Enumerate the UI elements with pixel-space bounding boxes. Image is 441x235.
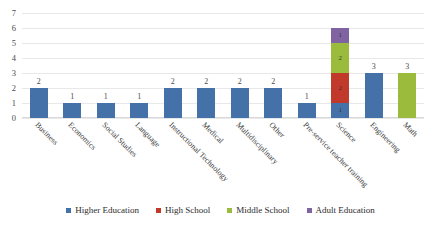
legend-swatch-icon — [307, 208, 312, 213]
legend-item-high-school[interactable]: High School — [156, 206, 210, 215]
segment-value-label: 1 — [338, 107, 342, 114]
x-axis-labels: BusinessEconomicsSocial StudiesLanguageI… — [22, 119, 424, 197]
bar-total-label: 2 — [30, 78, 48, 86]
x-label-slot: Pre-service teacher training — [290, 119, 324, 197]
x-label-slot: Math — [391, 119, 425, 197]
legend-label: Higher Education — [75, 206, 139, 215]
bar-segment-high-school[interactable]: 2 — [331, 73, 349, 103]
x-axis-label-other: Other — [268, 121, 287, 140]
bar-segment-higher-education[interactable] — [197, 88, 215, 118]
chart-container: 211122221122133 01234567 BusinessEconomi… — [0, 0, 441, 235]
legend-label: Middle School — [236, 206, 289, 215]
bar-slot: 2 — [223, 13, 257, 118]
bar-science[interactable]: 1221 — [331, 28, 349, 118]
legend-item-adult-education[interactable]: Adult Education — [307, 206, 375, 215]
legend-label: Adult Education — [316, 206, 375, 215]
bar-segment-middle-school[interactable]: 2 — [331, 43, 349, 73]
plot-area: 211122221122133 — [22, 13, 424, 118]
bar-slot: 3 — [391, 13, 425, 118]
bar-total-label: 2 — [264, 78, 282, 86]
bar-total-label: 2 — [197, 78, 215, 86]
bar-series-group: 211122221122133 — [22, 13, 424, 118]
bar-segment-higher-education[interactable] — [63, 103, 81, 118]
x-label-slot: Business — [22, 119, 56, 197]
bar-slot: 2 — [190, 13, 224, 118]
x-label-slot: Economics — [56, 119, 90, 197]
bar-slot: 3 — [357, 13, 391, 118]
x-label-slot: Engineering — [357, 119, 391, 197]
bar-slot: 1 — [89, 13, 123, 118]
bar-slot: 1 — [56, 13, 90, 118]
y-tick-label-4: 4 — [0, 54, 16, 63]
bar-total-label: 3 — [398, 63, 416, 71]
bar-segment-higher-education[interactable] — [130, 103, 148, 118]
bar-slot: 2 — [156, 13, 190, 118]
y-tick-label-7: 7 — [0, 9, 16, 18]
y-tick-label-3: 3 — [0, 69, 16, 78]
bar-medical[interactable]: 2 — [197, 88, 215, 118]
y-tick-label-1: 1 — [0, 99, 16, 108]
bar-language[interactable]: 1 — [130, 103, 148, 118]
bar-math[interactable]: 3 — [398, 73, 416, 118]
bar-total-label: 2 — [164, 78, 182, 86]
bar-slot: 1221 — [324, 13, 358, 118]
bar-total-label: 1 — [298, 93, 316, 101]
x-label-slot: Medical — [190, 119, 224, 197]
bar-segment-higher-education[interactable] — [264, 88, 282, 118]
bar-segment-adult-education[interactable]: 1 — [331, 28, 349, 43]
y-tick-label-5: 5 — [0, 39, 16, 48]
x-label-slot: Social Studies — [89, 119, 123, 197]
bar-multidisciplinary[interactable]: 2 — [231, 88, 249, 118]
legend-label: High School — [165, 206, 210, 215]
bar-social-studies[interactable]: 1 — [97, 103, 115, 118]
bar-segment-higher-education[interactable] — [97, 103, 115, 118]
bar-business[interactable]: 2 — [30, 88, 48, 118]
x-label-slot: Other — [257, 119, 291, 197]
bar-total-label: 1 — [97, 93, 115, 101]
bar-total-label: 1 — [63, 93, 81, 101]
x-label-slot: Instructional Technology — [156, 119, 190, 197]
x-label-slot: Language — [123, 119, 157, 197]
bar-segment-higher-education[interactable]: 1 — [331, 103, 349, 118]
bar-economics[interactable]: 1 — [63, 103, 81, 118]
y-tick-label-6: 6 — [0, 24, 16, 33]
x-label-slot: Science — [324, 119, 358, 197]
x-label-slot: Multidisciplinary — [223, 119, 257, 197]
x-axis-label-science: Science — [335, 121, 358, 144]
legend-item-higher-education[interactable]: Higher Education — [66, 206, 139, 215]
bar-engineering[interactable]: 3 — [365, 73, 383, 118]
segment-value-label: 2 — [338, 55, 342, 62]
bar-slot: 1 — [290, 13, 324, 118]
bar-other[interactable]: 2 — [264, 88, 282, 118]
bar-segment-higher-education[interactable] — [365, 73, 383, 118]
segment-value-label: 1 — [338, 32, 342, 39]
legend-swatch-icon — [156, 208, 161, 213]
bar-segment-higher-education[interactable] — [164, 88, 182, 118]
x-axis-label-medical: Medical — [201, 121, 225, 145]
x-axis-label-math: Math — [402, 121, 420, 139]
bar-instructional-technology[interactable]: 2 — [164, 88, 182, 118]
bar-segment-middle-school[interactable] — [398, 73, 416, 118]
bar-slot: 2 — [257, 13, 291, 118]
legend-item-middle-school[interactable]: Middle School — [227, 206, 289, 215]
bar-segment-higher-education[interactable] — [231, 88, 249, 118]
legend-swatch-icon — [66, 208, 71, 213]
bar-total-label: 1 — [130, 93, 148, 101]
bar-slot: 1 — [123, 13, 157, 118]
y-tick-label-0: 0 — [0, 114, 16, 123]
bar-slot: 2 — [22, 13, 56, 118]
chart-legend: Higher EducationHigh SchoolMiddle School… — [0, 206, 441, 215]
legend-swatch-icon — [227, 208, 232, 213]
segment-value-label: 2 — [338, 85, 342, 92]
y-tick-label-2: 2 — [0, 84, 16, 93]
bar-segment-higher-education[interactable] — [298, 103, 316, 118]
bar-total-label: 2 — [231, 78, 249, 86]
bar-total-label: 3 — [365, 63, 383, 71]
bar-pre-service-teacher-training[interactable]: 1 — [298, 103, 316, 118]
bar-segment-higher-education[interactable] — [30, 88, 48, 118]
